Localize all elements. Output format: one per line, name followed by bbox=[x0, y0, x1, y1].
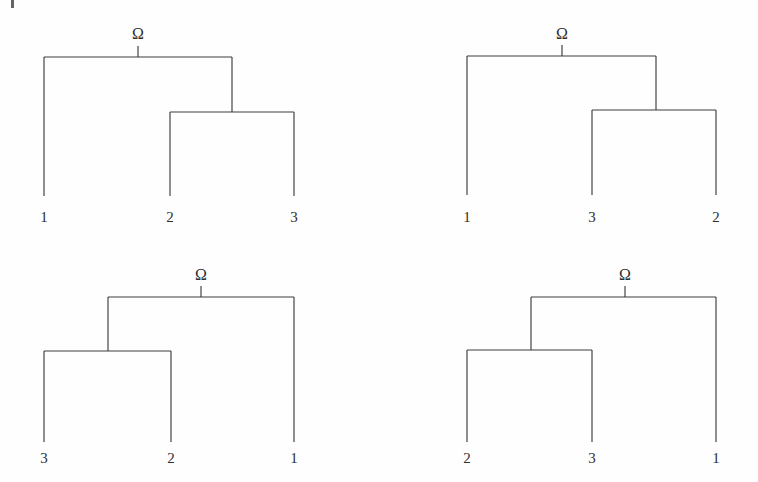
leaf-label-right: 3 bbox=[290, 210, 298, 225]
tree-figure: Ω 1 2 3 Ω 1 3 2 Ω 3 2 bbox=[0, 0, 758, 482]
leaf-label-left: 2 bbox=[463, 451, 471, 466]
tree-drawing-bottom-left bbox=[0, 241, 379, 482]
root-label: Ω bbox=[132, 26, 144, 42]
leaf-label-middle: 3 bbox=[588, 210, 596, 225]
leaf-label-left: 3 bbox=[40, 451, 48, 466]
root-label: Ω bbox=[195, 267, 207, 283]
tree-drawing-bottom-right bbox=[379, 241, 758, 482]
tree-panel-top-left: Ω 1 2 3 bbox=[0, 0, 379, 241]
tree-panel-bottom-right: Ω 2 3 1 bbox=[379, 241, 758, 482]
leaf-label-middle: 3 bbox=[588, 451, 596, 466]
root-label: Ω bbox=[556, 26, 568, 42]
leaf-label-middle: 2 bbox=[166, 210, 174, 225]
tree-drawing-top-right bbox=[379, 0, 758, 241]
leaf-label-right: 1 bbox=[712, 451, 720, 466]
leaf-label-middle: 2 bbox=[167, 451, 175, 466]
leaf-label-right: 2 bbox=[712, 210, 720, 225]
tree-drawing-top-left bbox=[0, 0, 379, 241]
leaf-label-left: 1 bbox=[463, 210, 471, 225]
tree-panel-bottom-left: Ω 3 2 1 bbox=[0, 241, 379, 482]
root-label: Ω bbox=[619, 267, 631, 283]
leaf-label-right: 1 bbox=[290, 451, 298, 466]
leaf-label-left: 1 bbox=[40, 210, 48, 225]
tree-panel-top-right: Ω 1 3 2 bbox=[379, 0, 758, 241]
